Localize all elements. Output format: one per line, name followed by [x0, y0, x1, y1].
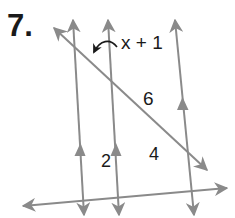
- geometry-diagram: [0, 0, 235, 218]
- angle-expression-label: x + 1: [121, 33, 163, 52]
- bottom-transversal: [23, 188, 227, 206]
- parallel-line-2: [108, 20, 122, 215]
- problem-number: 7.: [7, 10, 33, 41]
- segment-label-bottom-right: 4: [149, 145, 159, 163]
- parallel-marker-icon: [111, 143, 122, 156]
- parallel-marker-icon: [75, 143, 86, 156]
- curved-pointer-arrow-icon: [94, 41, 117, 52]
- segment-label-bottom-left: 2: [101, 152, 111, 170]
- parallel-line-3: [175, 20, 194, 215]
- segment-label-diagonal: 6: [143, 89, 154, 108]
- parallel-line-1: [73, 20, 86, 215]
- parallel-marker-icon: [177, 97, 189, 110]
